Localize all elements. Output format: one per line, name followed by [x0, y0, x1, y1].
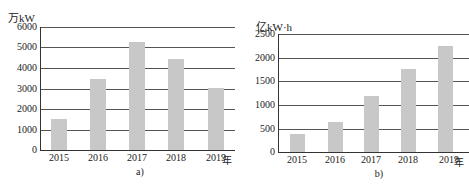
gridline [278, 34, 469, 35]
chart-a-xlabel: 2016 [78, 152, 118, 163]
bar-2015 [290, 134, 305, 152]
bar-2018 [168, 59, 184, 150]
chart-b-xlabel: 2018 [388, 154, 428, 165]
chart-a-xlabel: 2015 [39, 152, 79, 163]
chart-b-ytick: 1000 [241, 100, 275, 110]
bar-2017 [129, 42, 145, 150]
chart-b-ytick: 1500 [241, 76, 275, 86]
chart-a-ytick: 4000 [3, 63, 37, 73]
chart-b-xlabel: 2016 [315, 154, 355, 165]
bar-2015 [51, 119, 67, 150]
chart-b-ytick: 2000 [241, 53, 275, 63]
bar-2018 [401, 69, 416, 152]
bar-2016 [90, 79, 106, 150]
chart-a-xlabel: 2018 [156, 152, 196, 163]
chart-b-xlabel: 2015 [277, 154, 317, 165]
y-axis [40, 27, 41, 151]
chart-a-ytick: 0 [3, 145, 37, 155]
y-axis [278, 34, 279, 153]
chart-a-xlabel: 2017 [117, 152, 157, 163]
chart-b-ytick: 0 [241, 147, 275, 157]
bar-2016 [328, 122, 343, 152]
chart-a-ytick: 1000 [3, 125, 37, 135]
bar-2019 [438, 46, 453, 152]
chart-a-year-suffix: 年 [222, 152, 236, 167]
chart-b-ytick: 500 [241, 124, 275, 134]
chart-b-ytick: 2500 [241, 29, 275, 39]
x-axis [40, 150, 235, 151]
chart-a-ytick: 2000 [3, 104, 37, 114]
bar-2019 [208, 88, 224, 150]
chart-b-caption: b) [369, 168, 389, 179]
chart-a-ytick: 3000 [3, 84, 37, 94]
chart-a-ytick: 6000 [3, 22, 37, 32]
chart-a-caption: a) [130, 166, 150, 177]
bar-2017 [364, 96, 379, 152]
chart-b-xlabel: 2017 [351, 154, 391, 165]
x-axis [278, 152, 469, 153]
gridline [40, 27, 235, 28]
chart-b-year-suffix: 年 [454, 154, 468, 169]
chart-a-ytick: 5000 [3, 42, 37, 52]
